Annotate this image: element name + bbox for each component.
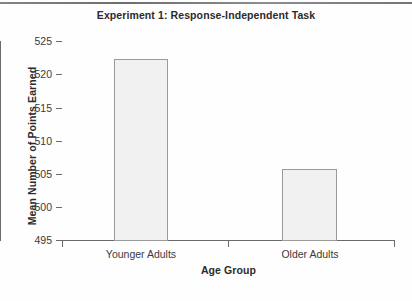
x-axis-title: Age Group <box>62 264 395 276</box>
y-axis-title: Mean Number of Points Earned <box>26 51 38 241</box>
scan-artifact-line <box>0 2 412 4</box>
y-tick-500 <box>56 207 62 208</box>
y-tick-525 <box>56 41 62 42</box>
chart-title: Experiment 1: Response-Independent Task <box>0 9 412 21</box>
x-tick-start <box>62 241 63 247</box>
bar-older-adults <box>282 169 337 241</box>
bar-younger-adults <box>114 59 168 241</box>
y-tick-515 <box>56 108 62 109</box>
x-category-label-older-adults: Older Adults <box>255 248 365 260</box>
figure-canvas: Experiment 1: Response-Independent Task … <box>0 0 412 301</box>
y-tick-505 <box>56 174 62 175</box>
x-tick-middle <box>228 241 229 247</box>
y-tick-520 <box>56 74 62 75</box>
x-category-label-younger-adults: Younger Adults <box>81 248 201 260</box>
y-tick-label-525-wrap: 525 <box>18 36 52 47</box>
y-axis-line <box>0 41 1 241</box>
x-tick-end <box>394 241 395 247</box>
y-tick-510 <box>56 141 62 142</box>
y-tick-label-525: 525 <box>20 36 52 47</box>
